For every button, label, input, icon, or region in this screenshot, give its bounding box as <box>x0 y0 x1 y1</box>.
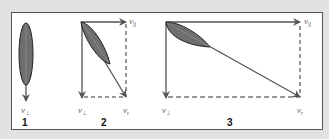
panel-number-3: 3 <box>227 117 233 128</box>
velocity-component-diagram: v⊥ 1 v|| v⊥ vr 2 v|| v⊥ vr 3 <box>0 0 329 139</box>
diagram-canvas: v⊥ 1 v|| v⊥ vr 2 v|| v⊥ vr 3 <box>0 0 329 139</box>
panel-number-1: 1 <box>22 117 28 128</box>
panel-number-2: 2 <box>101 117 107 128</box>
